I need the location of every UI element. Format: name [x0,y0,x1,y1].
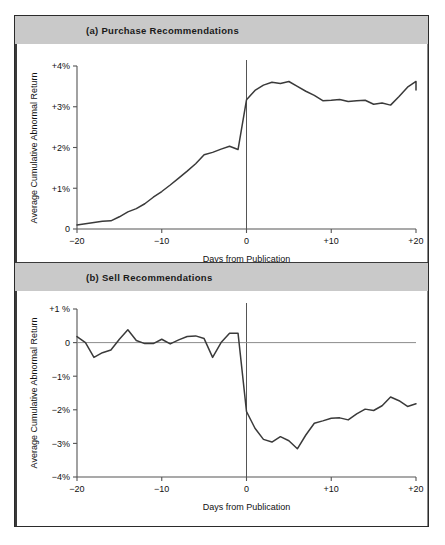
x-tick-label: 0 [244,484,249,494]
y-tick-label: −4% [52,472,70,482]
x-tick-label: 0 [244,236,249,246]
panel-sell-recommendations: (b) Sell Recommendations +1 %0−1%−2%−3%−… [15,263,428,528]
y-tick-label: 0 [65,224,70,234]
figure-page: (a) Purchase Recommendations 0+1%+2%+3%+… [0,0,445,545]
panel-a-title: (a) Purchase Recommendations [86,25,239,36]
x-tick-label: −10 [154,484,169,494]
y-tick-label: +4% [52,61,70,71]
panel-a-title-band: (a) Purchase Recommendations [15,16,428,44]
y-tick-label: −3% [52,439,70,449]
y-axis-caption: Average Cumulative Abnormal Return [29,318,39,469]
x-axis-caption: Days from Publication [203,502,291,512]
figure-frame: (a) Purchase Recommendations 0+1%+2%+3%+… [14,15,429,527]
y-tick-label: +2% [52,143,70,153]
x-tick-label: +20 [408,236,423,246]
x-tick-label: −10 [154,236,169,246]
y-axis-caption: Average Cumulative Abnormal Return [29,73,39,224]
y-tick-label: −2% [52,405,70,415]
x-tick-label: −20 [69,236,84,246]
y-tick-label: +3% [52,102,70,112]
panel-b-title: (b) Sell Recommendations [86,272,213,283]
y-tick-label: +1% [52,184,70,194]
y-tick-label: 0 [65,338,70,348]
x-tick-label: +20 [408,484,423,494]
panel-a-plot-area: 0+1%+2%+3%+4%−20−100+10+20Average Cumula… [15,44,428,272]
panel-a-chart: 0+1%+2%+3%+4%−20−100+10+20Average Cumula… [15,44,430,272]
panel-b-plot-area: +1 %0−1%−2%−3%−4%−20−100+10+20Average Cu… [15,291,428,528]
panel-b-title-band: (b) Sell Recommendations [15,263,428,291]
y-tick-label: +1 % [49,304,70,314]
panel-purchase-recommendations: (a) Purchase Recommendations 0+1%+2%+3%+… [15,16,428,272]
x-tick-label: +10 [324,236,339,246]
x-tick-label: +10 [324,484,339,494]
y-tick-label: −1% [52,372,70,382]
x-tick-label: −20 [69,484,84,494]
panel-b-chart: +1 %0−1%−2%−3%−4%−20−100+10+20Average Cu… [15,291,430,528]
